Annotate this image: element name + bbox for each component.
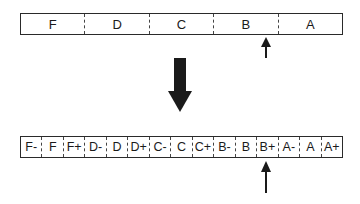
fine-grade-scale: F- F F+ D- D D+ C- C C+ B- B B+ A- A A+ — [20, 136, 343, 158]
top-marker-arrow-icon — [261, 37, 271, 58]
grade-cell: D — [106, 137, 127, 157]
arrows-layer — [0, 0, 360, 204]
bottom-marker-arrow-icon — [261, 161, 271, 193]
grade-cell: A+ — [321, 137, 342, 157]
grade-cell: D+ — [127, 137, 148, 157]
grade-cell: F — [41, 137, 62, 157]
grade-cell: B+ — [256, 137, 277, 157]
down-arrow-icon — [168, 58, 192, 112]
grade-cell: B- — [213, 137, 234, 157]
grade-cell: D- — [84, 137, 105, 157]
grade-cell: C — [170, 137, 191, 157]
grade-cell: A — [299, 137, 320, 157]
grade-cell: C- — [149, 137, 170, 157]
grade-cell: A- — [278, 137, 299, 157]
grade-cell: C+ — [192, 137, 213, 157]
grade-cell: B — [235, 137, 256, 157]
grade-cell: F- — [21, 137, 41, 157]
grade-cell: F+ — [63, 137, 84, 157]
